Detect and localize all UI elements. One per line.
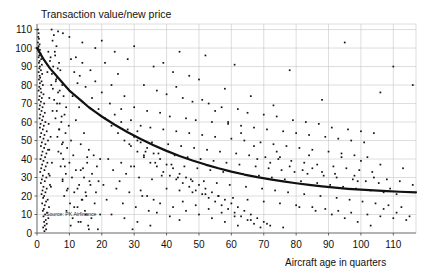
y-tick-label: 20 [21, 191, 33, 202]
source-note: Source: PK Airfinance [46, 211, 97, 217]
x-tick-label: 50 [193, 239, 205, 250]
chart-title: Transaction value/new price [41, 8, 172, 20]
chart-container: 0102030405060708090100110 01020304050607… [0, 0, 423, 278]
y-tick-label: 80 [21, 80, 33, 91]
x-tick-label: 0 [34, 239, 40, 250]
x-axis-title: Aircraft age in quarters [285, 257, 386, 268]
x-tick-label: 40 [161, 239, 173, 250]
y-tick-label: 0 [26, 228, 32, 239]
x-tick-label: 100 [353, 239, 370, 250]
y-tick-label: 70 [21, 98, 33, 109]
y-tick-label: 60 [21, 117, 33, 128]
x-tick-label: 60 [226, 239, 238, 250]
x-tick-label: 20 [96, 239, 108, 250]
y-tick-label: 110 [16, 24, 32, 35]
chart-background [0, 0, 423, 278]
y-tick-label: 90 [21, 61, 33, 72]
x-tick-label: 110 [385, 239, 401, 250]
y-tick-label: 30 [21, 172, 33, 183]
x-tick-label: 10 [64, 239, 76, 250]
y-tick-label: 50 [21, 135, 33, 146]
y-tick-label: 40 [21, 154, 33, 165]
x-tick-label: 80 [291, 239, 303, 250]
scatter-chart: 0102030405060708090100110 01020304050607… [0, 0, 423, 278]
x-tick-label: 30 [129, 239, 141, 250]
x-tick-label: 90 [323, 239, 335, 250]
y-tick-label: 100 [15, 43, 32, 54]
x-tick-label: 70 [258, 239, 270, 250]
y-tick-label: 10 [21, 209, 33, 220]
